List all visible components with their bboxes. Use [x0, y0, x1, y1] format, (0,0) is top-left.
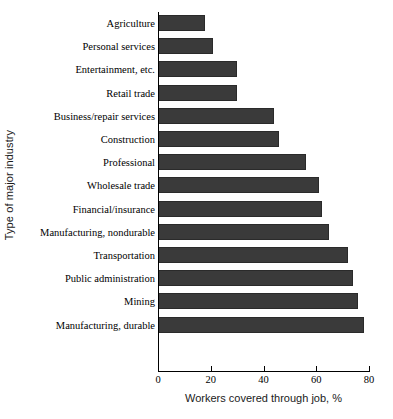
bar-row: Financial/insurance [0, 198, 393, 221]
x-tick-mark [158, 366, 159, 372]
x-tick-mark [369, 366, 370, 372]
bar-chart: Type of major industry AgriculturePerson… [0, 0, 393, 419]
category-label: Personal services [82, 35, 155, 58]
bar-row: Construction [0, 128, 393, 151]
bar [158, 317, 364, 333]
x-tick-label: 0 [138, 374, 178, 385]
bar-row: Personal services [0, 35, 393, 58]
category-label: Manufacturing, nondurable [40, 221, 155, 244]
x-axis-title: Workers covered through job, % [158, 392, 369, 404]
bar [158, 85, 237, 101]
bar-row: Entertainment, etc. [0, 58, 393, 81]
category-label: Mining [124, 290, 155, 313]
plot-area: AgriculturePersonal servicesEntertainmen… [0, 12, 393, 360]
bar-row: Manufacturing, durable [0, 314, 393, 337]
category-label: Financial/insurance [73, 198, 155, 221]
bar [158, 38, 213, 54]
bar [158, 247, 348, 263]
bar [158, 15, 205, 31]
x-tick-label: 20 [191, 374, 231, 385]
bar-row: Public administration [0, 267, 393, 290]
category-label: Construction [101, 128, 155, 151]
x-tick-label: 80 [349, 374, 389, 385]
category-label: Professional [103, 151, 155, 174]
bar-row: Mining [0, 290, 393, 313]
bar-row: Professional [0, 151, 393, 174]
x-tick-mark [211, 366, 212, 372]
x-tick-label: 40 [244, 374, 284, 385]
category-label: Manufacturing, durable [56, 314, 155, 337]
bar [158, 108, 274, 124]
bar-row: Retail trade [0, 82, 393, 105]
y-axis-line [158, 12, 159, 372]
bar-row: Manufacturing, nondurable [0, 221, 393, 244]
category-label: Transportation [94, 244, 155, 267]
bar [158, 224, 329, 240]
category-label: Public administration [65, 267, 155, 290]
bar [158, 270, 353, 286]
bar-row: Wholesale trade [0, 174, 393, 197]
x-tick-label: 60 [296, 374, 336, 385]
bar-row: Business/repair services [0, 105, 393, 128]
bar [158, 201, 322, 217]
bar [158, 293, 358, 309]
category-label: Agriculture [107, 12, 155, 35]
bar [158, 177, 319, 193]
category-label: Retail trade [106, 82, 155, 105]
bar-row: Transportation [0, 244, 393, 267]
x-tick-mark [316, 366, 317, 372]
bar [158, 131, 279, 147]
category-label: Business/repair services [54, 105, 155, 128]
bar-row: Agriculture [0, 12, 393, 35]
bar [158, 154, 306, 170]
bar [158, 61, 237, 77]
category-label: Entertainment, etc. [75, 58, 155, 81]
x-tick-mark [264, 366, 265, 372]
category-label: Wholesale trade [87, 174, 155, 197]
